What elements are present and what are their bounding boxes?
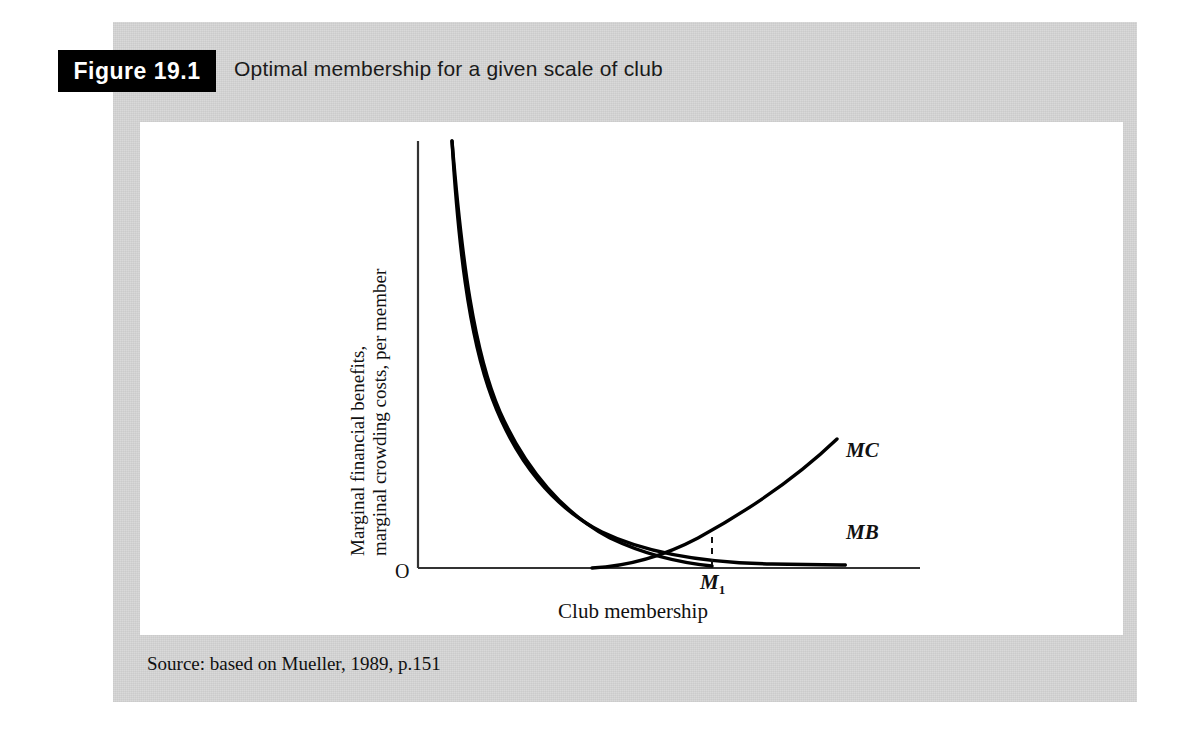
chart-canvas: Marginal financial benefits, marginal cr… [140, 122, 1123, 635]
m1-annotation-letter: M [700, 570, 719, 594]
origin-label: O [395, 560, 409, 583]
mc-curve-path [592, 439, 837, 568]
mb-curve-label: MB [846, 520, 879, 545]
source-note: Source: based on Mueller, 1989, p.151 [147, 653, 441, 675]
y-axis-title-line-1: Marginal financial benefits, [347, 346, 369, 556]
y-axis-title-line-2: marginal crowding costs, per member [369, 269, 391, 556]
figure-number-tab: Figure 19.1 [58, 50, 216, 92]
mb-curve-path [452, 141, 845, 565]
chart-plot-area [140, 122, 1123, 635]
x-axis-title: Club membership [558, 599, 708, 624]
mb-curve [452, 141, 712, 566]
figure-title: Optimal membership for a given scale of … [234, 57, 663, 81]
figure-number-label: Figure 19.1 [74, 58, 201, 85]
m1-annotation-subscript: 1 [719, 582, 726, 597]
figure-container: Figure 19.1 Optimal membership for a giv… [0, 0, 1197, 732]
mc-curve-label: MC [846, 438, 879, 463]
m1-annotation: M1 [700, 570, 725, 598]
